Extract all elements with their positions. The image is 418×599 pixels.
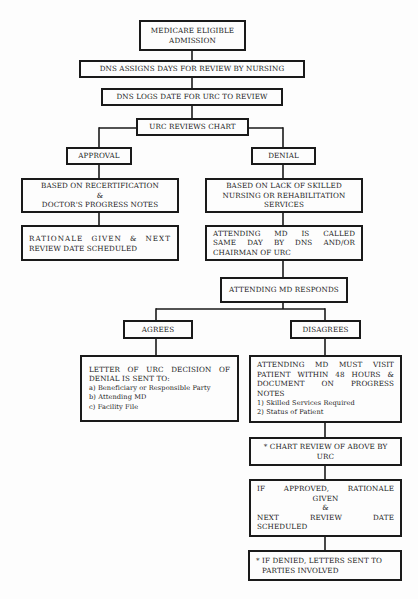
node-agrees: AGREES: [123, 320, 193, 339]
node-text: RATIONALE GIVEN & NEXT: [29, 234, 171, 244]
node-based-on-lack-of-skilled-nursing: BASED ON LACK OF SKILLED NURSING OR REHA…: [205, 178, 363, 213]
node-medicare-eligible-admission: MEDICARE ELIGIBLE ADMISSION: [139, 20, 246, 51]
node-text: CHAIRMAN OF URC: [213, 248, 355, 258]
node-text: DENIAL IS SENT TO:: [89, 374, 230, 384]
node-text: * IF DENIED, LETTERS SENT TO: [256, 556, 394, 566]
node-text: PARTIES INVOLVED: [256, 566, 394, 576]
node-text: LETTER OF URC DECISION OF: [89, 365, 230, 375]
node-text: SCHEDULED: [257, 522, 394, 532]
node-text: DENIAL: [268, 151, 299, 161]
node-approval: APPROVAL: [66, 147, 132, 165]
node-text: URC REVIEWS CHART: [149, 122, 236, 132]
node-text: REVIEW DATE SCHEDULED: [29, 244, 171, 254]
node-text: NURSING OR REHABILITATION: [223, 191, 346, 201]
node-chart-review-by-urc: * CHART REVIEW OF ABOVE BY URC: [249, 437, 402, 466]
list-item: b) Attending MD: [89, 393, 230, 403]
node-if-approved: IF APPROVED, RATIONALE GIVEN & NEXT REVI…: [249, 479, 402, 537]
node-attending-md-called: ATTENDING MD IS CALLED SAME DAY BY DNS A…: [205, 225, 363, 261]
list-item: c) Facility File: [89, 403, 230, 413]
node-text: ATTENDING MD MUST VISIT: [257, 360, 394, 370]
node-text: PATIENT WITHIN 48 HOURS &: [257, 370, 394, 380]
node-letter-of-urc-decision: LETTER OF URC DECISION OF DENIAL IS SENT…: [80, 355, 239, 422]
list-item: a) Beneficiary or Responsible Party: [89, 384, 230, 394]
node-text: MEDICARE ELIGIBLE: [151, 26, 234, 36]
node-text: DNS LOGS DATE FOR URC TO REVIEW: [117, 92, 268, 102]
node-denial: DENIAL: [251, 147, 316, 165]
node-text: URC: [317, 452, 334, 462]
node-text: APPROVAL: [78, 151, 120, 161]
node-text: * CHART REVIEW OF ABOVE BY: [264, 442, 388, 452]
node-text: DISAGREES: [302, 325, 348, 335]
node-text: NOTES: [257, 389, 394, 399]
node-if-denied: * IF DENIED, LETTERS SENT TO PARTIES INV…: [248, 550, 402, 581]
node-text: &: [257, 503, 394, 513]
node-dns-logs-date: DNS LOGS DATE FOR URC TO REVIEW: [101, 88, 283, 106]
node-text: ATTENDING MD RESPONDS: [229, 285, 339, 295]
node-urc-reviews-chart: URC REVIEWS CHART: [136, 118, 249, 136]
node-text: ATTENDING MD IS CALLED: [213, 229, 355, 239]
node-text: &: [97, 191, 104, 201]
node-text: BASED ON RECERTIFICATION: [41, 181, 159, 191]
node-text: IF APPROVED, RATIONALE: [257, 484, 394, 494]
node-text: AGREES: [142, 325, 174, 335]
node-text: GIVEN: [257, 494, 394, 504]
node-based-on-recertification: BASED ON RECERTIFICATION & DOCTOR'S PROG…: [21, 178, 179, 213]
node-attending-md-responds: ATTENDING MD RESPONDS: [220, 277, 348, 303]
node-rationale-given: RATIONALE GIVEN & NEXT REVIEW DATE SCHED…: [21, 225, 179, 261]
node-disagrees: DISAGREES: [290, 320, 361, 339]
node-text: DNS ASSIGNS DAYS FOR REVIEW BY NURSING: [100, 64, 285, 74]
node-text: ADMISSION: [169, 36, 216, 46]
list-item: 1) Skilled Services Required: [257, 399, 394, 409]
node-text: BASED ON LACK OF SKILLED: [226, 181, 342, 191]
node-text: NEXT REVIEW DATE: [257, 513, 394, 523]
list-item: 2) Status of Patient: [257, 408, 394, 418]
node-attending-md-must-visit: ATTENDING MD MUST VISIT PATIENT WITHIN 4…: [249, 355, 402, 423]
node-text: DOCTOR'S PROGRESS NOTES: [42, 200, 158, 210]
node-dns-assigns-days: DNS ASSIGNS DAYS FOR REVIEW BY NURSING: [79, 60, 305, 78]
node-text: SERVICES: [264, 200, 304, 210]
node-text: DOCUMENT ON PROGRESS: [257, 379, 394, 389]
node-text: SAME DAY BY DNS AND/OR: [213, 238, 355, 248]
